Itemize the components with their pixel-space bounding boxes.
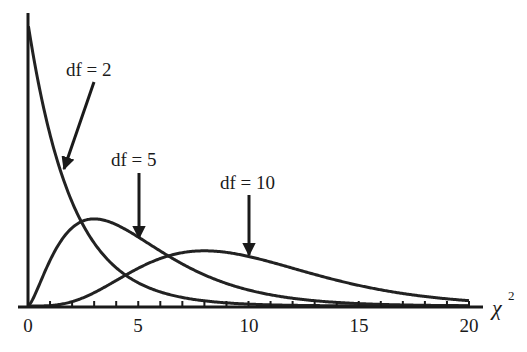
x-axis-label-superscript: 2: [508, 288, 515, 303]
annotation-df5: df = 5: [111, 149, 157, 170]
arrow-df2: [64, 82, 94, 169]
annotation-df2: df = 2: [66, 59, 112, 80]
x-tick-label-10: 10: [240, 315, 259, 336]
chi-square-chart: 0 5 10 15 20 χ 2 df = 2 df = 5 df = 10: [0, 0, 527, 352]
curve-df10: [28, 251, 469, 306]
x-tick-label-0: 0: [23, 315, 33, 336]
x-tick-label-20: 20: [460, 315, 479, 336]
x-axis-label: χ: [490, 295, 503, 320]
x-tick-label-15: 15: [350, 315, 369, 336]
x-tick-label-5: 5: [133, 315, 143, 336]
annotation-df10: df = 10: [220, 172, 275, 193]
